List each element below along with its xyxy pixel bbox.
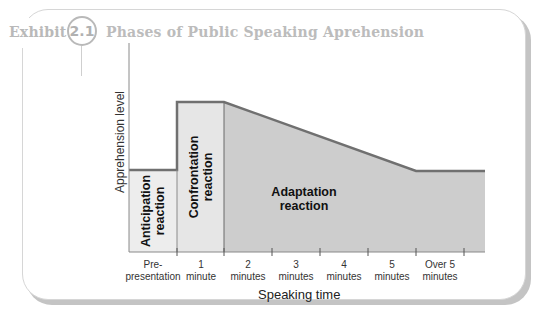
adaptation-area (224, 102, 485, 252)
x-tick-label: Over 5minutes (410, 259, 470, 282)
y-axis-label: Apprehension level (113, 91, 127, 193)
phase-label-anticipation: Anticipation reaction (139, 175, 167, 247)
x-axis-label: Speaking time (258, 287, 340, 302)
phase-label-adaptation: Adaptation reaction (264, 185, 344, 213)
phase-label-confrontation: Confrontation reaction (187, 136, 215, 219)
